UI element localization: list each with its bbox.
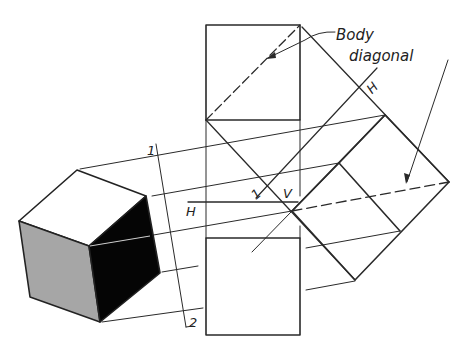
reference-line-1-2 [156, 144, 186, 327]
front-view-body-diagonal [206, 25, 300, 120]
callout-label-diagonal: diagonal [349, 47, 414, 65]
auxiliary-view-square [252, 115, 449, 280]
pictorial-cube [19, 170, 160, 322]
fold-label-h-left: H [186, 204, 196, 219]
fold-label-v: V [283, 186, 293, 201]
fold-label-1: 1 [248, 186, 264, 203]
top-view-square [206, 238, 300, 335]
ref-label-1: 1 [147, 143, 155, 158]
callout-label-body: Body [336, 26, 375, 44]
callout-leader-body [268, 32, 335, 58]
orthographic-cube-diagram: Body diagonal 1 2 H V 1 H [0, 0, 470, 353]
callout-leader-diagonal [407, 60, 448, 182]
ref-label-2: 2 [189, 315, 197, 330]
arrowhead-body [266, 52, 276, 59]
